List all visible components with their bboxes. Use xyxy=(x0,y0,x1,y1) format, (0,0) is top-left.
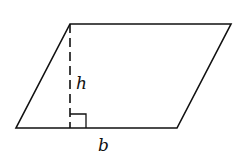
right-angle-marker xyxy=(70,114,86,128)
height-label: h xyxy=(76,73,87,93)
parallelogram-diagram: h b xyxy=(0,0,251,154)
base-label: b xyxy=(98,135,109,154)
parallelogram-shape xyxy=(16,24,231,128)
